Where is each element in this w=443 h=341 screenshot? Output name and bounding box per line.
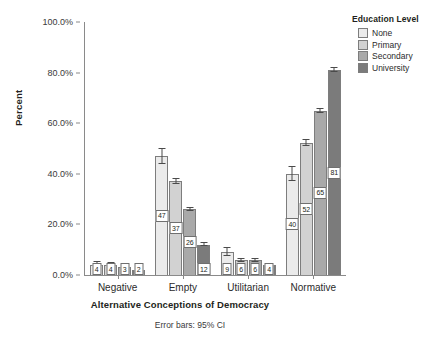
legend-swatch	[358, 63, 368, 73]
legend-label: None	[372, 28, 392, 38]
error-bar	[224, 247, 231, 256]
bar-value-label: 3	[120, 263, 129, 275]
bar-container[interactable]: 65	[314, 22, 327, 275]
error-bar	[331, 67, 338, 72]
y-tick-label: 20.0%	[47, 219, 73, 229]
y-tick-label: 40.0%	[47, 169, 73, 179]
x-axis-line	[84, 275, 346, 276]
legend-label: University	[372, 63, 409, 73]
bar-value-label: 47	[155, 210, 168, 222]
bar-container[interactable]: 52	[300, 22, 313, 275]
bar-container[interactable]: 40	[286, 22, 299, 275]
bar-value-label: 9	[223, 263, 232, 275]
error-bar	[158, 148, 165, 164]
bar-container[interactable]: 4	[263, 22, 276, 275]
legend-swatch	[358, 51, 368, 61]
x-tick-label: Normative	[291, 282, 337, 293]
bar-value-label: 6	[251, 263, 260, 275]
legend-title: Education Level	[352, 14, 442, 24]
legend-item[interactable]: Primary	[352, 40, 442, 50]
error-bar	[200, 242, 207, 246]
error-bar	[317, 108, 324, 114]
plot-area: 443247372612966440526581	[85, 22, 346, 275]
y-tick-label: 0.0%	[52, 270, 73, 280]
legend-swatch	[358, 28, 368, 38]
x-tick-label: Empty	[169, 282, 197, 293]
y-axis-ticks: 0.0%20.0%40.0%60.0%80.0%100.0%	[0, 0, 84, 341]
x-tick-label: Utilitarian	[227, 282, 269, 293]
error-bar	[303, 139, 310, 146]
bar-container[interactable]: 4	[90, 22, 103, 275]
bar-value-label: 37	[169, 222, 182, 234]
bar-container[interactable]: 12	[197, 22, 210, 275]
bar-value-label: 4	[265, 263, 274, 275]
bar-container[interactable]: 2	[132, 22, 145, 275]
y-tick-label: 60.0%	[47, 118, 73, 128]
y-tick-mark	[76, 224, 80, 225]
legend-label: Primary	[372, 40, 401, 50]
x-tick-mark	[248, 275, 249, 279]
error-bar	[186, 207, 193, 211]
x-axis-title: Alternative Conceptions of Democracy	[0, 299, 360, 310]
error-bar	[289, 166, 296, 182]
legend-item[interactable]: None	[352, 28, 442, 38]
bar-value-label: 40	[286, 218, 299, 230]
bar-group: 47372612	[150, 22, 215, 275]
bar-container[interactable]: 6	[235, 22, 248, 275]
y-tick-mark	[76, 173, 80, 174]
bar-group: 40526581	[281, 22, 346, 275]
bar-value-label: 65	[314, 187, 327, 199]
y-tick-mark	[76, 72, 80, 73]
bar-container[interactable]: 9	[221, 22, 234, 275]
error-bar	[172, 178, 179, 185]
bar-value-label: 52	[300, 203, 313, 215]
bar-chart: Percent 0.0%20.0%40.0%60.0%80.0%100.0% 4…	[0, 0, 443, 341]
bar-group: 9664	[216, 22, 281, 275]
legend-item[interactable]: Secondary	[352, 51, 442, 61]
bar-value-label: 12	[197, 263, 210, 275]
chart-footnote: Error bars: 95% CI	[0, 320, 380, 330]
y-tick-mark	[76, 123, 80, 124]
bar-container[interactable]: 26	[183, 22, 196, 275]
y-tick-mark	[76, 22, 80, 23]
bar-container[interactable]: 4	[104, 22, 117, 275]
y-tick-mark	[76, 275, 80, 276]
bar-container[interactable]: 47	[155, 22, 168, 275]
bar-value-label: 26	[183, 236, 196, 248]
legend: Education Level NonePrimarySecondaryUniv…	[352, 14, 442, 74]
bar-container[interactable]: 37	[169, 22, 182, 275]
x-tick-mark	[183, 275, 184, 279]
y-tick-label: 100.0%	[42, 17, 73, 27]
bar-value-label: 6	[237, 263, 246, 275]
bar-value-label: 4	[92, 263, 101, 275]
error-bar	[252, 258, 259, 261]
bar-value-label: 2	[134, 263, 143, 275]
legend-item[interactable]: University	[352, 63, 442, 73]
bar-container[interactable]: 3	[118, 22, 131, 275]
bar-value-label: 81	[328, 167, 341, 179]
x-tick-mark	[118, 275, 119, 279]
y-tick-label: 80.0%	[47, 68, 73, 78]
bar-container[interactable]: 81	[328, 22, 341, 275]
error-bar	[238, 258, 245, 262]
x-tick-mark	[313, 275, 314, 279]
bar-value-label: 4	[106, 263, 115, 275]
bar-container[interactable]: 6	[249, 22, 262, 275]
bar-group: 4432	[85, 22, 150, 275]
legend-swatch	[358, 40, 368, 50]
legend-label: Secondary	[372, 51, 413, 61]
x-tick-label: Negative	[98, 282, 137, 293]
